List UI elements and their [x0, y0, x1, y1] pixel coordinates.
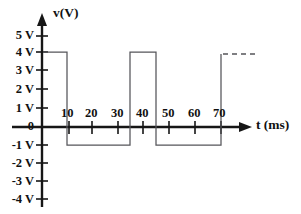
y-tick-label-5v: 5 V	[6, 29, 34, 41]
x-tick-label-30: 30	[111, 107, 124, 119]
y-tick-label-3v: 3 V	[6, 64, 34, 76]
x-tick-label-40: 40	[136, 107, 149, 119]
y-tick-label-4v: 4 V	[6, 46, 34, 58]
y-axis-arrow-icon	[37, 13, 47, 26]
y-tick-label-0: 0	[6, 120, 34, 132]
y-tick-label-1v: 1 V	[6, 102, 34, 114]
x-axis-arrow-icon	[239, 122, 252, 132]
x-axis-title: t (ms)	[256, 118, 289, 131]
x-tick-label-50: 50	[162, 107, 175, 119]
y-tick-label-minus1v: -1 V	[2, 139, 34, 151]
y-tick-label-2v: 2 V	[6, 83, 34, 95]
x-tick-label-10: 10	[61, 107, 74, 119]
x-tick-label-70: 70	[213, 107, 226, 119]
waveform-figure: 5 V 4 V 3 V 2 V 1 V 0 -1 V -2 V -3 V -4 …	[0, 0, 301, 214]
y-tick-label-minus4v: -4 V	[2, 193, 34, 205]
y-tick-label-minus2v: -2 V	[2, 157, 34, 169]
y-tick-label-minus3v: -3 V	[2, 175, 34, 187]
x-tick-label-20: 20	[85, 107, 98, 119]
y-axis-title: v(V)	[53, 6, 79, 19]
x-tick-label-60: 60	[188, 107, 201, 119]
waveform-plot-svg	[0, 0, 301, 214]
